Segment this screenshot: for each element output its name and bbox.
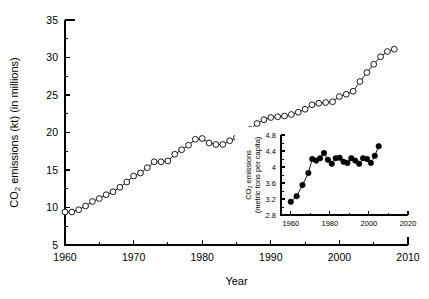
main-data-point [282,113,288,119]
main-data-point [316,100,322,106]
main-data-point [110,189,116,195]
main-data-point [213,142,219,148]
y-ticklabel: 10 [46,201,58,213]
inset-data-point [321,150,326,155]
main-data-point [83,203,89,209]
inset-y-ticklabel: 4.8 [266,131,276,140]
main-data-point [227,138,233,144]
main-data-point [254,121,260,127]
main-data-point [275,114,281,120]
main-data-point [309,102,315,108]
x-ticklabel: 1990 [259,251,283,263]
inset-y-ticklabel: 3.6 [266,179,276,188]
x-ticklabel: 2000 [328,251,352,263]
main-data-point [364,70,370,76]
chart-svg: 5101520253035196019701980199020002010Yea… [0,0,429,299]
x-axis-title: Year [225,275,248,287]
main-data-point [343,91,349,97]
inset-y-ticklabel: 2.8 [266,211,276,220]
main-data-point [172,151,178,157]
y-ticklabel: 35 [46,14,58,26]
main-data-point [391,46,397,52]
inset-y-axis-title-line1: CO2 emissions [244,150,253,200]
main-data-point [371,61,377,67]
main-data-point [179,147,185,153]
main-data-point [192,136,198,142]
inset-data-point [288,199,293,204]
main-data-point [151,159,157,165]
inset-data-point [317,156,322,161]
main-data-point [357,79,363,85]
main-data-point [69,209,75,215]
main-data-point [62,209,68,215]
main-data-point [350,88,356,94]
x-ticklabel: 1960 [53,251,77,263]
main-data-point [165,158,171,164]
y-ticklabel: 15 [46,164,58,176]
inset-data-point [372,153,377,158]
y-axis-title: CO2 emissions (kt) (in millions) [8,57,22,207]
main-data-point [337,94,343,100]
main-data-point [268,115,274,121]
y-ticklabel: 20 [46,126,58,138]
main-data-point [103,192,109,198]
main-data-point [220,142,226,148]
y-ticklabel: 25 [46,89,58,101]
main-data-point [96,196,102,202]
inset-data-point [376,144,381,149]
main-data-point [288,112,294,118]
main-data-point [90,199,96,205]
inset-y-ticklabel: 3.2 [266,195,276,204]
x-ticklabel: 1980 [191,251,215,263]
main-data-point [378,54,384,60]
main-data-point [138,170,144,176]
main-data-point [261,117,267,123]
main-data-point [131,173,137,179]
inset-data-point [300,182,305,187]
inset-y-ticklabel: 4.4 [266,147,276,156]
main-data-point [330,99,336,105]
inset-data-point [294,194,299,199]
y-ticklabel: 30 [46,51,58,63]
inset-y-axis-title-line2: (metric tons per capita) [253,136,262,213]
inset-x-ticklabel: 2000 [361,219,378,228]
figure-canvas: 5101520253035196019701980199020002010Yea… [0,0,429,299]
main-data-point [124,179,130,185]
main-data-point [323,100,329,106]
inset-x-ticklabel: 2020 [400,219,417,228]
main-data-point [144,165,150,171]
inset-data-point [345,160,350,165]
main-data-point [117,184,123,190]
main-data-point [186,142,192,148]
inset-x-ticklabel: 1960 [282,219,299,228]
inset-data-point [329,161,334,166]
main-data-point [295,109,301,115]
y-ticklabel: 5 [52,239,58,251]
main-data-point [158,159,164,165]
x-ticklabel: 1970 [122,251,146,263]
inset-y-ticklabel: 4 [272,163,276,172]
inset-data-point [368,160,373,165]
main-data-point [76,207,82,213]
main-data-point [385,49,391,55]
x-ticklabel: 2010 [396,251,420,263]
inset-data-point [306,170,311,175]
main-data-point [206,140,212,146]
main-data-point [302,106,308,112]
main-data-point [199,136,205,142]
inset-x-ticklabel: 1980 [322,219,339,228]
inset-data-point [356,161,361,166]
